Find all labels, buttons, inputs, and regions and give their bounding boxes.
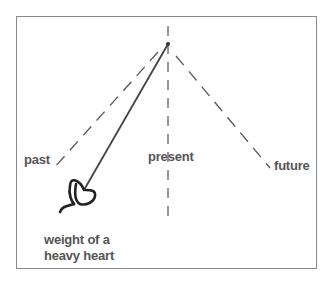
- label-heavy-heart-line2: heavy heart: [44, 248, 114, 264]
- diagram-canvas: past present future weight of a heavy he…: [0, 0, 334, 286]
- label-heavy-heart: weight of a heavy heart: [44, 232, 114, 264]
- pendulum-line: [84, 44, 168, 190]
- pivot-point: [166, 42, 170, 46]
- label-heavy-heart-line1: weight of a: [44, 232, 114, 248]
- label-future: future: [274, 158, 310, 173]
- label-past: past: [24, 152, 50, 167]
- heart-icon: [60, 180, 95, 212]
- label-present: present: [148, 149, 194, 164]
